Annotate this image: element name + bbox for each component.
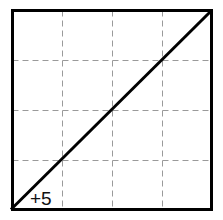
- slope-label: +5: [30, 188, 52, 209]
- slope-chart: +5: [0, 0, 223, 220]
- chart-canvas: +5: [0, 0, 223, 220]
